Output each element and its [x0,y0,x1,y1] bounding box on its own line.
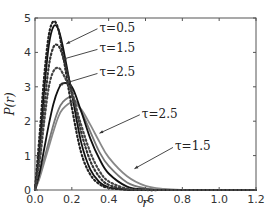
y-tick-label: 4 [24,46,31,59]
annotation-label: τ=1.5 [175,139,211,153]
annotation-label: τ=2.5 [99,65,135,79]
y-tick-label: 3 [24,81,31,94]
x-tick-label: 0.4 [100,193,118,206]
x-tick-label: 0.8 [174,193,192,206]
y-tick-label: 0 [24,184,31,197]
y-tick-label: 1 [24,150,31,163]
y-axis-label: P(r) [3,92,17,116]
annotation-label: τ=1.5 [99,41,135,55]
annotation-label: τ=0.5 [99,21,135,35]
x-tick-label: 1.0 [210,193,228,206]
x-tick-label: 1.2 [247,193,265,206]
x-tick-label: 0.2 [63,193,81,206]
line-chart: τ=0.5τ=1.5τ=2.5τ=2.5τ=1.5 0.00.20.40.60.… [0,0,277,220]
y-tick-label: 2 [24,115,31,128]
y-tick-label: 5 [24,12,31,25]
annotation-label: τ=2.5 [142,107,178,121]
